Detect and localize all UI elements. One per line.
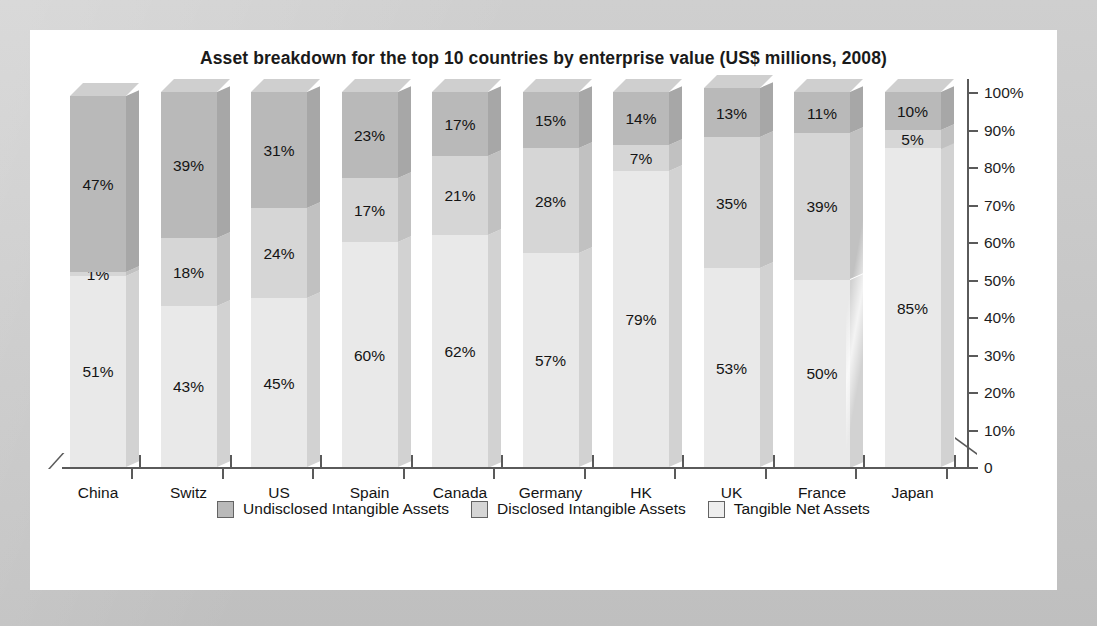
segment-undisclosed-intangible-assets: 15% xyxy=(523,92,579,148)
data-label: 11% xyxy=(794,105,850,123)
y-tick-label: 70% xyxy=(984,197,1015,215)
bar-top-corner xyxy=(307,79,333,92)
segment-side-face xyxy=(850,127,863,279)
segment-side-face xyxy=(760,82,773,137)
data-label: 17% xyxy=(342,202,398,220)
segment-tangible-net-assets: 45% xyxy=(251,298,307,467)
bar-column: 45%24%31% xyxy=(251,92,307,467)
y-tick-label: 10% xyxy=(984,422,1015,440)
bar-column: 43%18%39% xyxy=(161,92,217,467)
x-tick xyxy=(773,455,775,467)
legend-swatch xyxy=(708,501,725,518)
data-label: 39% xyxy=(161,157,217,175)
data-label: 14% xyxy=(613,110,669,128)
segment-side-face xyxy=(579,142,592,253)
x-tick xyxy=(230,455,232,467)
segment-undisclosed-intangible-assets: 11% xyxy=(794,92,850,133)
y-axis xyxy=(967,79,969,467)
x-tick xyxy=(411,455,413,467)
y-tick-label: 30% xyxy=(984,347,1015,365)
data-label: 45% xyxy=(251,375,307,393)
data-label: 51% xyxy=(70,363,126,381)
bar-uk: 53%35%13% xyxy=(704,92,770,467)
bar-spain: 60%17%23% xyxy=(342,92,408,467)
legend-swatch xyxy=(217,501,234,518)
segment-undisclosed-intangible-assets: 17% xyxy=(432,92,488,156)
data-label: 43% xyxy=(161,378,217,396)
bar-japan: 85%5%10% xyxy=(885,92,951,467)
y-tick xyxy=(967,355,978,357)
y-tick-label: 80% xyxy=(984,159,1015,177)
data-label: 23% xyxy=(342,127,398,145)
x-tick xyxy=(501,455,503,467)
bar-top-face xyxy=(523,79,592,92)
y-tick xyxy=(967,467,978,469)
y-tick xyxy=(967,92,978,94)
legend-item: Tangible Net Assets xyxy=(708,500,870,518)
segment-tangible-net-assets: 60% xyxy=(342,242,398,467)
data-label: 18% xyxy=(161,264,217,282)
data-label: 5% xyxy=(885,131,941,149)
chart-panel: Asset breakdown for the top 10 countries… xyxy=(30,30,1057,590)
bar-canada: 62%21%17% xyxy=(432,92,498,467)
segment-side-face xyxy=(126,90,139,272)
segment-side-face xyxy=(488,150,501,235)
bar-top-face xyxy=(161,79,230,92)
bar-top-face xyxy=(251,79,320,92)
segment-side-face xyxy=(488,86,501,156)
bar-top-face xyxy=(704,75,773,88)
data-label: 13% xyxy=(704,105,760,123)
segment-side-face xyxy=(398,86,411,178)
bar-hk: 79%7%14% xyxy=(613,92,679,467)
bar-china: 51%1%47% xyxy=(70,92,136,467)
bar-column: 60%17%23% xyxy=(342,92,398,467)
legend-label: Tangible Net Assets xyxy=(734,500,870,518)
segment-disclosed-intangible-assets: 17% xyxy=(342,178,398,242)
x-tick-lower xyxy=(674,467,676,479)
bar-germany: 57%28%15% xyxy=(523,92,589,467)
segment-side-face xyxy=(850,274,863,467)
segment-tangible-net-assets: 62% xyxy=(432,235,488,468)
data-label: 50% xyxy=(794,365,850,383)
data-label: 35% xyxy=(704,195,760,213)
x-tick xyxy=(682,455,684,467)
bar-top-corner xyxy=(488,79,514,92)
x-tick-lower xyxy=(403,467,405,479)
x-axis xyxy=(62,467,969,469)
x-tick-lower xyxy=(493,467,495,479)
segment-tangible-net-assets: 50% xyxy=(794,280,850,468)
segment-undisclosed-intangible-assets: 23% xyxy=(342,92,398,178)
data-label: 31% xyxy=(251,142,307,160)
y-tick xyxy=(967,167,978,169)
data-label: 53% xyxy=(704,360,760,378)
segment-disclosed-intangible-assets: 5% xyxy=(885,130,941,149)
bar-top-face xyxy=(70,83,139,96)
legend-label: Undisclosed Intangible Assets xyxy=(243,500,449,518)
y-tick xyxy=(967,430,978,432)
y-tick-label: 60% xyxy=(984,234,1015,252)
segment-side-face xyxy=(760,262,773,467)
data-label: 79% xyxy=(613,311,669,329)
y-tick xyxy=(967,280,978,282)
data-label: 17% xyxy=(432,116,488,134)
x-tick-lower xyxy=(584,467,586,479)
bar-switz: 43%18%39% xyxy=(161,92,227,467)
bar-column: 85%5%10% xyxy=(885,92,941,467)
segment-side-face xyxy=(217,232,230,305)
segment-tangible-net-assets: 43% xyxy=(161,306,217,467)
x-tick-lower xyxy=(946,467,948,479)
data-label: 15% xyxy=(523,112,579,130)
segment-side-face xyxy=(941,142,954,467)
bar-top-face xyxy=(885,79,954,92)
plot-area: 51%1%47%43%18%39%45%24%31%60%17%23%62%21… xyxy=(62,92,1022,512)
segment-disclosed-intangible-assets: 18% xyxy=(161,238,217,306)
segment-side-face xyxy=(398,236,411,467)
data-label: 57% xyxy=(523,352,579,370)
x-tick-lower xyxy=(855,467,857,479)
bar-top-corner xyxy=(941,79,967,92)
x-tick-lower xyxy=(312,467,314,479)
bar-column: 53%35%13% xyxy=(704,92,760,467)
segment-side-face xyxy=(126,270,139,467)
segment-tangible-net-assets: 57% xyxy=(523,253,579,467)
bar-france: 50%39%11% xyxy=(794,92,860,467)
